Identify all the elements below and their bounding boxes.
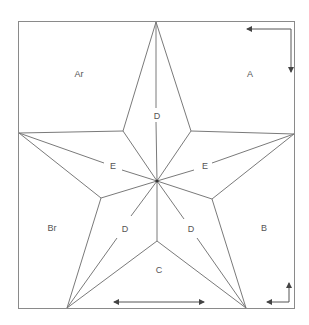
fold-label-d-lower-right: D xyxy=(188,224,195,234)
region-label-b: B xyxy=(261,223,267,233)
region-label-ar: Ar xyxy=(75,69,84,79)
star-diagram: Ar A Br B C D E E D D xyxy=(0,0,309,325)
corner-arrow-top-right-icon xyxy=(247,29,291,72)
corner-arrow-bottom-right-icon xyxy=(267,283,289,302)
region-label-br: Br xyxy=(48,223,57,233)
center-point xyxy=(156,180,159,183)
fold-label-d-lower-left: D xyxy=(122,224,129,234)
region-label-c: C xyxy=(156,265,163,275)
fold-label-e-right: E xyxy=(202,161,208,171)
fold-label-d-top: D xyxy=(154,111,161,121)
fold-label-e-left: E xyxy=(110,161,116,171)
region-label-a: A xyxy=(247,69,253,79)
